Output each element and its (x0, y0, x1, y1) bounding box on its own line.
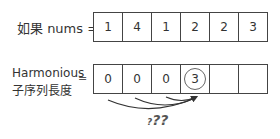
curved-arrows-icon (0, 0, 280, 139)
question-marks: ??? (147, 112, 168, 128)
